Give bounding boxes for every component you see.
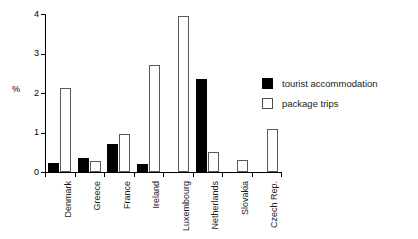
x-category-label: Greece [93, 181, 102, 211]
y-tick-label: 1 [28, 128, 39, 137]
x-category-label: Czech Rep. [270, 181, 279, 228]
y-tick-label: 2 [28, 89, 39, 98]
bar-chart: % 01234 DenmarkGreeceFranceIrelandLuxemb… [0, 0, 418, 239]
legend-item-package-trips: package trips [262, 93, 412, 113]
x-category-label: Luxembourg [182, 181, 191, 231]
x-tick-mark [134, 172, 135, 177]
x-tick-mark [163, 172, 164, 177]
x-tick-mark [193, 172, 194, 177]
legend-label: tourist accommodation [282, 78, 378, 89]
y-tick-label: 0 [28, 168, 39, 177]
x-tick-mark [104, 172, 105, 177]
legend-label: package trips [282, 98, 339, 109]
x-tick-mark [75, 172, 76, 177]
x-category-label: Netherlands [211, 181, 220, 230]
bar [149, 65, 160, 172]
x-tick-mark [45, 172, 46, 177]
bar [196, 79, 207, 172]
legend-item-tourist-accommodation: tourist accommodation [262, 73, 412, 93]
x-tick-mark [281, 172, 282, 177]
bar [267, 129, 278, 172]
bar [90, 161, 101, 172]
bar [237, 160, 248, 172]
bar [137, 164, 148, 172]
legend-swatch-hollow-icon [262, 98, 273, 109]
y-axis-label: % [12, 85, 20, 94]
x-category-label: Slovakia [241, 181, 250, 215]
y-tick-label: 3 [28, 49, 39, 58]
x-category-label: Denmark [64, 181, 73, 218]
bar [48, 163, 59, 172]
x-tick-mark [252, 172, 253, 177]
bar [107, 144, 118, 172]
x-category-label: Ireland [152, 181, 161, 209]
legend-swatch-solid-icon [262, 78, 273, 89]
x-tick-mark [222, 172, 223, 177]
bar [78, 158, 89, 172]
y-tick-label: 4 [28, 10, 39, 19]
x-category-label: France [123, 181, 132, 209]
bar [60, 88, 71, 172]
bar [119, 134, 130, 172]
bar [178, 16, 189, 172]
bar [208, 152, 219, 172]
plot-area [45, 14, 281, 172]
chart-legend: tourist accommodation package trips [262, 73, 412, 113]
